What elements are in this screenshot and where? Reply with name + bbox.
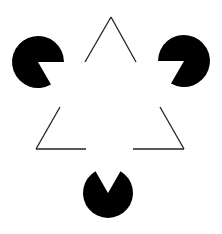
kanizsa-figure — [0, 0, 222, 234]
